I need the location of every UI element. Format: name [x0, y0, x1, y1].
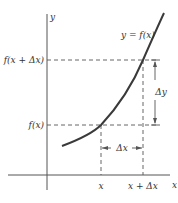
y-tick-fx-plus-dx: f(x + Δx) — [3, 55, 45, 65]
y-tick-fx: f(x) — [28, 120, 45, 130]
x-tick-x-plus-dx: x + Δx — [128, 181, 158, 191]
x-axis-label: x — [172, 180, 177, 190]
curve-label: y = f(x) — [120, 30, 155, 40]
y-axis-label: y — [49, 12, 56, 22]
delta-x-label: Δx — [115, 143, 128, 153]
derivative-diagram: y x y = f(x) f(x + Δx) f(x) x x + Δx Δx … — [0, 0, 178, 203]
delta-y-label: Δy — [154, 87, 167, 97]
x-tick-x: x — [98, 181, 103, 191]
